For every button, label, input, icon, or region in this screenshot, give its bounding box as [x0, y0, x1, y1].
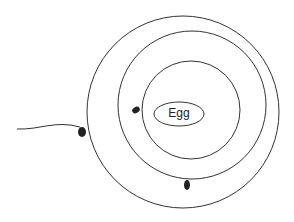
egg-label: Egg: [154, 106, 204, 120]
middle-ring: [118, 31, 266, 179]
diagram-canvas: [0, 0, 294, 222]
sperm-middle: [131, 105, 141, 114]
sperm-outer: [17, 124, 86, 137]
sperm-lower: [184, 180, 190, 190]
